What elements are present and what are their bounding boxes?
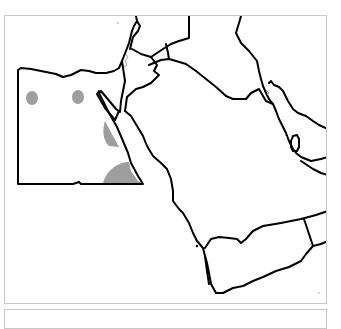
map-speck-2 (318, 292, 319, 293)
jordan-saudi-border (125, 57, 159, 111)
saudi-yemen-border (205, 211, 327, 248)
yemen-south-coast (211, 241, 327, 293)
qatar-peninsula (291, 135, 299, 151)
jordan-border (132, 16, 189, 57)
highlight-area-west-oasis-2 (72, 90, 84, 104)
iraq-iran-border (236, 16, 263, 86)
arabia-red-sea-coast (125, 111, 211, 284)
caption-panel (4, 309, 327, 329)
iran-gulf-coast (269, 81, 327, 129)
highlight-area-west-oasis-1 (26, 91, 38, 105)
uae-border (301, 161, 327, 175)
map-canvas (5, 16, 327, 304)
saudi-iraq-border (149, 59, 273, 104)
map-panel (4, 15, 327, 304)
map-speck (117, 22, 118, 23)
yemen-oman-border (304, 219, 313, 246)
red-sea-island (196, 245, 198, 247)
levant-coast (122, 16, 137, 61)
